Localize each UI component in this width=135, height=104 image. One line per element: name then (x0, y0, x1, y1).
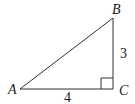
triangle-diagram: A B C 4 3 (0, 0, 135, 104)
side-label-ac: 4 (64, 90, 71, 104)
vertex-label-a: A (7, 82, 17, 97)
vertex-label-c: C (119, 83, 129, 98)
vertex-label-b: B (112, 2, 121, 17)
side-ab-hypotenuse (20, 18, 113, 89)
side-label-bc: 3 (120, 46, 127, 61)
right-angle-marker (101, 78, 113, 89)
